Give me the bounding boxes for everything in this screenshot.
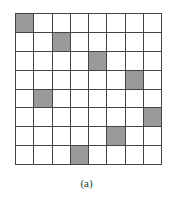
grid-cell bbox=[16, 71, 34, 90]
grid-cell bbox=[89, 71, 107, 90]
grid-cell bbox=[53, 146, 71, 165]
grid-cell bbox=[89, 90, 107, 109]
grid-cell bbox=[107, 14, 125, 33]
grid-cell-shaded bbox=[107, 127, 125, 146]
grid-cell bbox=[126, 33, 144, 52]
grid-cell bbox=[144, 71, 162, 90]
grid-cell bbox=[144, 52, 162, 71]
grid-cell bbox=[53, 71, 71, 90]
grid-cell bbox=[71, 14, 89, 33]
grid-cell bbox=[16, 90, 34, 109]
grid-cell bbox=[34, 14, 52, 33]
grid-cell bbox=[107, 146, 125, 165]
grid-cell bbox=[71, 33, 89, 52]
grid-cell bbox=[126, 14, 144, 33]
grid-cell bbox=[71, 52, 89, 71]
grid-cell bbox=[71, 90, 89, 109]
grid-cell bbox=[144, 90, 162, 109]
grid-cell bbox=[16, 146, 34, 165]
grid-cell bbox=[16, 33, 34, 52]
grid-cell bbox=[126, 90, 144, 109]
grid-cell-shaded bbox=[71, 146, 89, 165]
grid-cell bbox=[16, 108, 34, 127]
grid-cell-shaded bbox=[144, 108, 162, 127]
grid-cell bbox=[53, 108, 71, 127]
grid-cell bbox=[34, 52, 52, 71]
grid-cell bbox=[34, 146, 52, 165]
grid-cell bbox=[34, 33, 52, 52]
grid-cell bbox=[126, 108, 144, 127]
grid-cell bbox=[107, 90, 125, 109]
grid-cell bbox=[53, 90, 71, 109]
grid-cell bbox=[144, 146, 162, 165]
grid-cell bbox=[89, 146, 107, 165]
eight-by-eight-grid bbox=[15, 13, 162, 165]
grid-cell bbox=[71, 108, 89, 127]
grid-cell-shaded bbox=[53, 33, 71, 52]
grid-cell bbox=[126, 127, 144, 146]
grid-cell bbox=[34, 108, 52, 127]
grid-cell bbox=[53, 14, 71, 33]
grid-cell bbox=[34, 127, 52, 146]
grid-cell bbox=[71, 127, 89, 146]
grid-cell bbox=[144, 14, 162, 33]
grid-cell-shaded bbox=[89, 52, 107, 71]
grid-cell bbox=[89, 127, 107, 146]
grid-cell bbox=[89, 108, 107, 127]
grid-cell bbox=[126, 52, 144, 71]
grid-cell bbox=[16, 52, 34, 71]
grid-cell bbox=[89, 33, 107, 52]
grid-cell bbox=[126, 146, 144, 165]
grid-cell bbox=[107, 71, 125, 90]
grid-cell-shaded bbox=[126, 71, 144, 90]
grid-cell bbox=[16, 127, 34, 146]
grid-cell bbox=[144, 127, 162, 146]
grid-cell bbox=[53, 127, 71, 146]
grid-cell bbox=[53, 52, 71, 71]
grid-cell bbox=[144, 33, 162, 52]
grid-cell-shaded bbox=[34, 90, 52, 109]
figure-caption: (a) bbox=[0, 177, 173, 189]
grid-cell bbox=[34, 71, 52, 90]
grid-cell bbox=[71, 71, 89, 90]
grid-cell bbox=[107, 108, 125, 127]
grid-cell bbox=[107, 52, 125, 71]
grid-cell bbox=[107, 33, 125, 52]
grid-cell bbox=[89, 14, 107, 33]
grid-cell-shaded bbox=[16, 14, 34, 33]
